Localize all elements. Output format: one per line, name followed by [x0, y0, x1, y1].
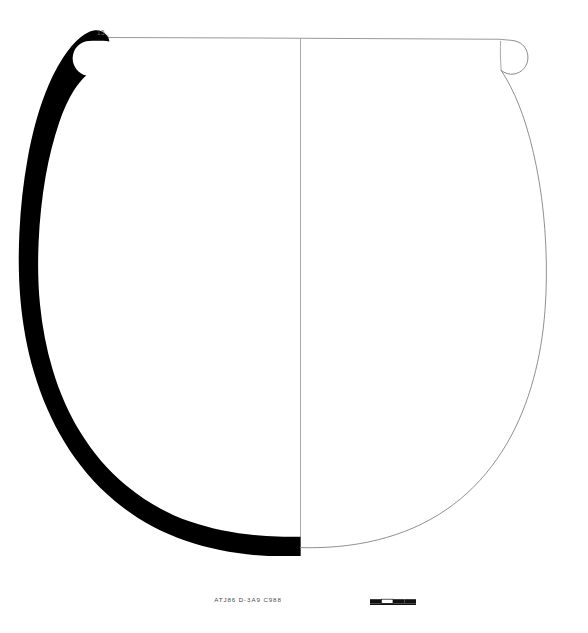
scale-bar-baseline [370, 603, 416, 605]
pottery-profile-illustration [0, 0, 588, 633]
rim-diameter-label: 15 [97, 29, 105, 36]
catalogue-caption: ATJ86 D-3A9 C988 [0, 596, 542, 603]
drawing-sheet: 15 ATJ86 D-3A9 C988 [0, 0, 588, 633]
